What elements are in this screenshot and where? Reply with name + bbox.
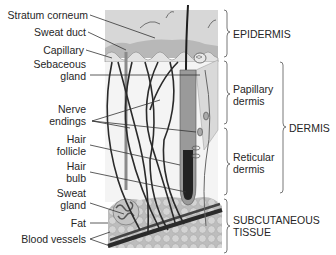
label-reticular-line1: Reticular — [233, 151, 274, 163]
label-bulb-line1: Hair — [66, 160, 86, 172]
label-sweat-gland-line2: gland — [57, 199, 86, 211]
label-bulb-line2: bulb — [66, 172, 86, 184]
label-papillary-line1: Papillary — [233, 83, 273, 95]
label-reticular-dermis: Reticular dermis — [233, 151, 274, 175]
label-stratum-corneum: Stratum corneum — [7, 9, 88, 21]
label-nerve-endings: Nerve endings — [49, 103, 86, 127]
label-sweat-duct: Sweat duct — [34, 26, 86, 38]
label-epidermis: EPIDERMIS — [233, 28, 291, 40]
label-follicle-line2: follicle — [57, 145, 86, 157]
label-sebaceous-line2: gland — [33, 70, 86, 82]
label-fat: Fat — [71, 217, 86, 229]
label-dermis: DERMIS — [289, 122, 330, 134]
label-blood-vessels: Blood vessels — [21, 233, 86, 245]
label-sweat-gland: Sweat gland — [57, 187, 86, 211]
label-sebaceous-gland: Sebaceous gland — [33, 58, 86, 82]
label-subcutaneous-tissue: SUBCUTANEOUS TISSUE — [233, 214, 320, 238]
label-nerve-line2: endings — [49, 115, 86, 127]
label-subcutaneous-line1: SUBCUTANEOUS — [233, 214, 320, 226]
label-papillary-dermis: Papillary dermis — [233, 83, 273, 107]
label-subcutaneous-line2: TISSUE — [233, 226, 320, 238]
label-nerve-line1: Nerve — [49, 103, 86, 115]
label-papillary-line2: dermis — [233, 95, 273, 107]
label-reticular-line2: dermis — [233, 163, 274, 175]
label-sweat-gland-line1: Sweat — [57, 187, 86, 199]
label-capillary: Capillary — [43, 44, 84, 56]
label-hair-follicle: Hair follicle — [57, 133, 86, 157]
label-sebaceous-line1: Sebaceous — [33, 58, 86, 70]
label-follicle-line1: Hair — [57, 133, 86, 145]
label-hair-bulb: Hair bulb — [66, 160, 86, 184]
